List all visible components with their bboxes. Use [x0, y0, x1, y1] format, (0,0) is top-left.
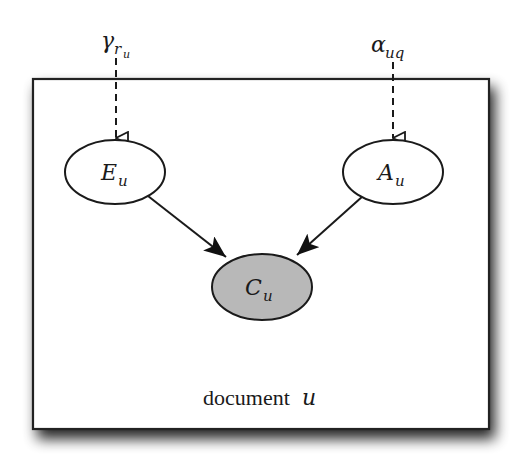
hyperparameter-alpha: α uq: [371, 32, 404, 62]
alpha-symbol: α: [371, 32, 386, 57]
alpha-sub: uq: [385, 44, 404, 62]
node-A: A u: [343, 140, 443, 204]
node-E-symbol: E: [100, 160, 117, 185]
graphical-model-diagram: γ r u α uq E u A u C u document u: [0, 0, 521, 461]
node-A-sub: u: [395, 172, 405, 190]
node-E: E u: [65, 140, 165, 204]
gamma-subsub: u: [123, 48, 130, 61]
node-C-observed: C u: [212, 254, 312, 320]
gamma-symbol: γ: [101, 28, 115, 53]
node-C-symbol: C: [245, 275, 262, 300]
node-A-symbol: A: [376, 160, 394, 185]
hyperparameter-gamma: γ r u: [101, 28, 130, 61]
gamma-sub: r: [114, 40, 122, 58]
plate-label-var: u: [302, 385, 316, 410]
node-C-sub: u: [263, 287, 273, 305]
plate-label-text: document: [203, 385, 290, 410]
node-E-sub: u: [118, 172, 128, 190]
